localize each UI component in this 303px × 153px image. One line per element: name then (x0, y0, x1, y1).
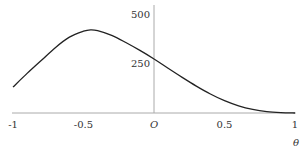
chart: -1-0.5O0.51 250500 θ (0, 0, 303, 153)
x-tick-label: 0.5 (217, 119, 233, 130)
x-tick-label: 1 (292, 119, 298, 130)
x-tick-label: -1 (8, 119, 18, 130)
x-axis-label: θ (293, 137, 299, 148)
y-tick-labels: 250500 (131, 9, 150, 70)
x-tick-label: O (150, 119, 158, 130)
x-tick-label: -0.5 (74, 119, 93, 130)
y-tick-label: 250 (131, 58, 150, 69)
y-tick-label: 500 (131, 9, 150, 20)
x-tick-labels: -1-0.5O0.51 (8, 119, 298, 130)
